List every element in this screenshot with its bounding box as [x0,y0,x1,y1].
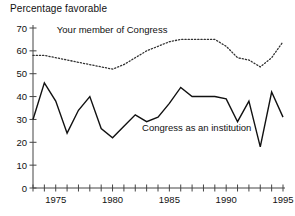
series-label: Congress as an institution [142,122,251,133]
x-tick-label: 1985 [159,194,180,205]
chart-plot-area: 010203040506070 19751980198519901995 You… [0,0,295,216]
x-tick-label: 1975 [45,194,66,205]
x-tick-label: 1980 [102,194,123,205]
series-annotations: Your member of CongressCongress as an in… [57,24,252,133]
y-tick-label: 40 [16,91,27,102]
y-axis: 010203040506070 [16,23,36,194]
y-tick-label: 10 [16,160,27,171]
x-tick-label: 1990 [216,194,237,205]
x-tick-label: 1995 [272,194,293,205]
y-tick-label: 20 [16,137,27,148]
series-label: Your member of Congress [57,24,168,35]
x-axis: 19751980198519901995 [33,185,294,206]
series-line [33,83,283,147]
y-tick-label: 0 [22,183,27,194]
y-tick-label: 30 [16,114,27,125]
chart-container: Percentage favorable 010203040506070 197… [0,0,295,216]
y-tick-label: 70 [16,23,27,34]
series-line [33,39,283,69]
y-tick-label: 60 [16,45,27,56]
y-tick-label: 50 [16,68,27,79]
